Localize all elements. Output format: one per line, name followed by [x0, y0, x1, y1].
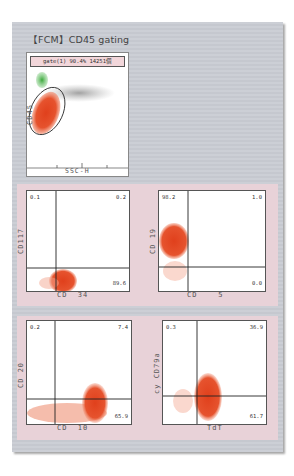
- cd45-gating-plot: gate(1) 90.4% 14251個 CD45: [26, 52, 129, 177]
- plot-row-1: 0.1 0.2 89.6 CD117 CD 34 98.2 1.0 0.0 CD…: [17, 184, 278, 306]
- cd34-cd117-plot: 0.1 0.2 89.6: [26, 190, 130, 292]
- y-axis-label: cy CD79a: [153, 352, 161, 394]
- x-axis-label: CD 10: [57, 424, 88, 432]
- quadrant-ur: 36.9: [250, 324, 263, 330]
- y-axis-label: CD 19: [149, 228, 157, 254]
- y-axis-label: CD 20: [17, 362, 25, 388]
- x-axis-label: CD 34: [57, 291, 88, 299]
- x-axis-label: CD 5: [187, 291, 224, 299]
- tdt-cd79a-plot: 0.3 36.9 61.7: [162, 320, 267, 425]
- quadrant-lr: 65.9: [115, 413, 128, 419]
- cd45-scatter: [27, 53, 128, 176]
- x-axis-label: TdT: [207, 424, 223, 432]
- quadrant-ur: 1.0: [252, 194, 262, 200]
- quadrant-ur: 0.2: [116, 194, 126, 200]
- quadrant-ul: 0.1: [30, 194, 40, 200]
- quadrant-lr: 89.6: [113, 280, 126, 286]
- y-axis-label: CD45: [26, 104, 34, 125]
- quadrant-ur: 7.4: [118, 324, 128, 330]
- quadrant-ul: 0.3: [166, 324, 176, 330]
- x-axis-label: SSC-H: [65, 167, 90, 175]
- cd5-cd19-plot: 98.2 1.0 0.0: [158, 190, 266, 292]
- fcm-panel: 【FCM】CD45 gating gate(1) 90.4% 14251個: [12, 22, 283, 452]
- y-axis-label: CD117: [17, 228, 25, 254]
- quadrant-lr: 61.7: [250, 413, 263, 419]
- panel-title: 【FCM】CD45 gating: [28, 32, 129, 46]
- quadrant-ul: 0.2: [30, 324, 40, 330]
- quadrant-ul: 98.2: [162, 194, 175, 200]
- quadrant-lr: 0.0: [252, 280, 262, 286]
- cd10-cd20-plot: 0.2 7.4 65.9: [26, 320, 132, 425]
- plot-row-2: 0.2 7.4 65.9 CD 20 CD 10 0.3 36.9 61.7 c…: [17, 316, 278, 440]
